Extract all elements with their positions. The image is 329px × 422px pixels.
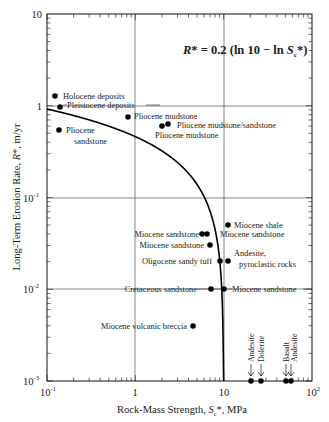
y-axis-label: Long-Term Erosion Rate, R*, m/yr (11, 123, 22, 270)
label-miocene-sandstone-right: Miocene sandstone (220, 230, 285, 239)
svg-text:10-3: 10-3 (23, 374, 39, 387)
label-andesite-2: Andesite (290, 333, 299, 362)
arrow-icons (248, 364, 294, 376)
x-axis-label: Rock-Mass Strength, Sc*, MPa (117, 404, 247, 417)
label-pliocene-sandstone-2: sandstone (74, 137, 107, 146)
label-cretaceous: Cretaceous sandstone (125, 285, 198, 294)
label-miocene-shale: Miocene shale (234, 221, 283, 230)
label-volcanic-breccia: Miocene volcanic breccia (101, 322, 187, 331)
label-pliocene-mudstone: Pliocene mudstone (134, 112, 198, 121)
svg-text:102: 102 (306, 385, 320, 398)
point-labels: Holocene deposits Pleistocene deposits P… (63, 92, 297, 331)
svg-text:10-1: 10-1 (23, 191, 39, 204)
label-miocene-sandstone-right-2: Miocene sandstone (232, 285, 297, 294)
rotated-labels: Andesite Dolerite Basalt Andesite (247, 333, 299, 362)
y-tick-labels: 10 1 10-1 10-2 10-3 (23, 9, 42, 387)
svg-text:10-2: 10-2 (23, 282, 39, 295)
label-andesite-1: Andesite (247, 333, 256, 362)
label-andesite-pyro-1: Andesite, (234, 249, 266, 258)
label-miocene-sandstone-left: Miocene sandstone (135, 230, 200, 239)
label-pliocene-mudstone-2: Pliocene mudstone (155, 131, 219, 140)
label-pliocene-sandstone-1: Pliocene (66, 126, 95, 135)
svg-text:1: 1 (132, 387, 137, 398)
label-dolerite: Dolerite (257, 335, 266, 362)
svg-text:10: 10 (32, 9, 43, 20)
label-miocene-sandstone-left-2: Miocene sandstone (140, 241, 205, 250)
label-holocene: Holocene deposits (63, 92, 125, 101)
label-pleistocene: Pleistocene deposits (67, 101, 135, 110)
x-tick-labels: 10-1 1 10 102 (40, 385, 320, 398)
equation: R* = 0.2 (ln 10 − ln Sc*) (182, 43, 307, 59)
label-oligocene: Oligocene sandy tuff (142, 257, 212, 266)
erosion-rate-chart: R* = 0.2 (ln 10 − ln Sc*) Holocene depos… (0, 0, 329, 422)
svg-text:1: 1 (37, 101, 42, 112)
label-pliocene-mudstone-sandstone: Pliocene mudstone/sandstone (177, 121, 276, 130)
svg-text:10: 10 (219, 387, 230, 398)
label-andesite-pyro-2: pyroclastic rocks (239, 260, 296, 269)
svg-text:10-1: 10-1 (40, 385, 56, 398)
